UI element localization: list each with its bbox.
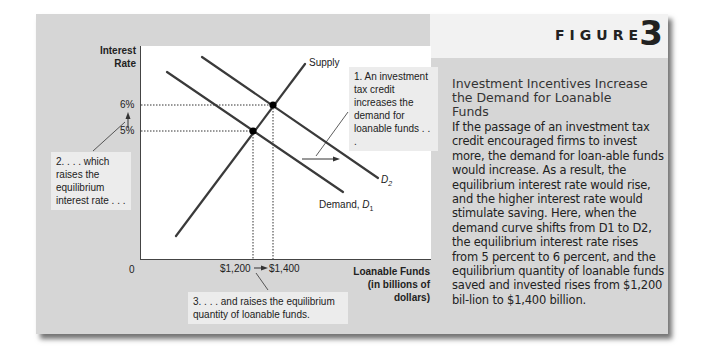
annotation-3: 3. . . . and raises the equilibrium quan…: [188, 292, 348, 324]
supply-curve: [176, 64, 305, 236]
d2-label: D2: [381, 174, 392, 187]
x-tick-1200: $1,200: [220, 263, 251, 274]
x-tick-1400: $1,400: [269, 263, 300, 274]
origin-label: 0: [129, 264, 135, 275]
equilibrium-point-1: [249, 127, 256, 134]
y-tick-6: 6%: [120, 99, 134, 110]
annotation-1: 1. An investment tax credit increases th…: [349, 67, 438, 151]
y-axis-title: InterestRate: [90, 44, 136, 70]
supply-label: Supply: [309, 57, 340, 68]
right-arrow-icon: [261, 266, 268, 271]
equilibrium-point-2: [269, 101, 276, 108]
caption-body: If the passage of an investment tax cred…: [452, 120, 667, 307]
demand-d1-label: Demand, D1: [319, 199, 374, 212]
shift-arrow-icon: [333, 157, 340, 162]
caption-title: Investment Incentives Increase the Deman…: [452, 77, 652, 119]
y-tick-5: 5%: [120, 125, 134, 136]
up-arrow-icon: [126, 112, 131, 119]
annotation-2: 2. . . . which raises the equilibrium in…: [51, 152, 131, 210]
